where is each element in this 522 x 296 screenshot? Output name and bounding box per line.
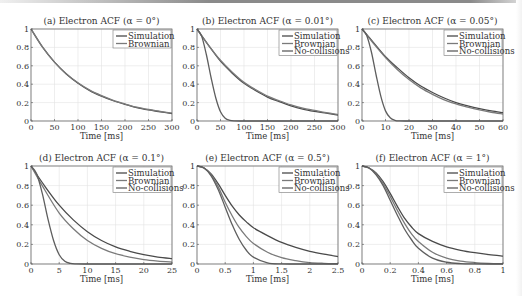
panel-title: (b) Electron ACF (α = 0.01°)	[202, 16, 333, 26]
y-tick-label: 0.2	[347, 240, 360, 249]
legend-entry: No-collisions	[459, 183, 515, 193]
x-tick-label: 0	[194, 266, 199, 275]
y-tick-label: 1	[355, 25, 360, 34]
y-tick-label: 1	[355, 162, 360, 171]
y-tick-label: 1	[24, 162, 29, 171]
x-tick-label: 2.5	[332, 266, 345, 275]
y-tick-label: 0	[24, 117, 29, 126]
panel-title: (d) Electron ACF (α = 0.1°)	[39, 153, 164, 163]
y-tick-label: 0.2	[347, 99, 360, 108]
chart-panel-d: 051015202500.20.40.60.81(d) Electron ACF…	[16, 153, 183, 284]
y-tick-label: 0	[190, 260, 195, 269]
x-tick-label: 50	[49, 123, 59, 132]
legend: SimulationBrownianNo-collisions	[113, 167, 184, 193]
y-tick-label: 0.4	[182, 221, 195, 230]
x-tick-label: 50	[474, 123, 484, 132]
y-tick-label: 0.8	[16, 43, 29, 52]
y-tick-label: 0.8	[182, 43, 195, 52]
x-tick-label: 0	[359, 123, 364, 132]
x-axis-label: Time [ms]	[411, 131, 454, 141]
x-tick-label: 50	[215, 123, 225, 132]
y-tick-label: 0.2	[16, 99, 29, 108]
y-tick-label: 0.6	[347, 201, 360, 210]
y-tick-label: 0.4	[16, 221, 29, 230]
panel-title: (a) Electron ACF (α = 0°)	[43, 16, 159, 26]
x-tick-label: 300	[330, 123, 345, 132]
legend-entry: No-collisions	[294, 46, 350, 56]
y-tick-label: 1	[24, 25, 29, 34]
panel-title: (e) Electron ACF (α = 0.5°)	[205, 153, 330, 163]
x-tick-label: 250	[307, 123, 322, 132]
x-tick-label: 2	[307, 266, 312, 275]
x-tick-label: 10	[380, 123, 390, 132]
chart-panel-f: 00.20.40.60.8100.20.40.60.81(f) Electron…	[347, 153, 514, 284]
x-tick-label: 250	[141, 123, 156, 132]
x-axis-label: Time [ms]	[80, 274, 123, 284]
chart-panel-a: 05010015020025030000.20.40.60.81(a) Elec…	[16, 16, 179, 141]
x-tick-label: 0	[28, 266, 33, 275]
legend-entry: Brownian	[128, 39, 170, 49]
y-tick-label: 0.6	[182, 62, 195, 71]
y-tick-label: 0.8	[347, 182, 360, 191]
legend: SimulationBrownianNo-collisions	[279, 167, 350, 193]
panel-title: (c) Electron ACF (α = 0.05°)	[367, 16, 497, 26]
chart-panel-c: 010203040506000.20.40.60.81(c) Electron …	[347, 16, 514, 141]
legend: SimulationBrownianNo-collisions	[279, 30, 350, 56]
x-tick-label: 1	[500, 266, 505, 275]
y-tick-label: 0.6	[347, 62, 360, 71]
y-tick-label: 1	[190, 162, 195, 171]
y-tick-label: 0.2	[182, 240, 195, 249]
y-tick-label: 0.8	[16, 182, 29, 191]
x-tick-label: 0	[28, 123, 33, 132]
chart-panel-b: 05010015020025030000.20.40.60.81(b) Elec…	[182, 16, 349, 141]
x-axis-label: Time [ms]	[246, 131, 289, 141]
x-tick-label: 60	[498, 123, 508, 132]
legend-entry: No-collisions	[294, 183, 350, 193]
x-tick-label: 300	[164, 123, 179, 132]
y-tick-label: 0.6	[16, 62, 29, 71]
y-tick-label: 0.6	[16, 201, 29, 210]
legend: SimulationBrownian	[113, 30, 175, 49]
y-tick-label: 0.4	[347, 221, 360, 230]
x-tick-label: 0	[194, 123, 199, 132]
y-tick-label: 0	[355, 260, 360, 269]
legend-entry: No-collisions	[128, 183, 184, 193]
y-tick-label: 0.4	[347, 80, 360, 89]
y-tick-label: 0.4	[182, 80, 195, 89]
x-tick-label: 0	[359, 266, 364, 275]
y-tick-label: 1	[190, 25, 195, 34]
figure-canvas: 05010015020025030000.20.40.60.81(a) Elec…	[0, 0, 522, 296]
x-axis-label: Time [ms]	[80, 131, 123, 141]
x-tick-label: 5	[57, 266, 62, 275]
y-tick-label: 0.2	[182, 99, 195, 108]
y-tick-label: 0.4	[16, 80, 29, 89]
y-tick-label: 0.2	[16, 240, 29, 249]
legend-entry: No-collisions	[459, 46, 515, 56]
legend: SimulationBrownianNo-collisions	[444, 167, 515, 193]
legend: SimulationBrownianNo-collisions	[444, 30, 515, 56]
x-tick-label: 0.8	[468, 266, 481, 275]
y-tick-label: 0.8	[182, 182, 195, 191]
x-tick-label: 0.5	[219, 266, 232, 275]
y-tick-label: 0.8	[347, 43, 360, 52]
y-tick-label: 0	[355, 117, 360, 126]
x-tick-label: 0.2	[384, 266, 397, 275]
x-tick-label: 25	[167, 266, 177, 275]
x-axis-label: Time [ms]	[411, 274, 454, 284]
panel-title: (f) Electron ACF (α = 1°)	[375, 153, 489, 163]
y-tick-label: 0.6	[182, 201, 195, 210]
x-axis-label: Time [ms]	[246, 274, 289, 284]
x-tick-label: 20	[139, 266, 149, 275]
y-tick-label: 0	[190, 117, 195, 126]
y-tick-label: 0	[24, 260, 29, 269]
chart-panel-e: 00.511.522.500.20.40.60.81(e) Electron A…	[182, 153, 349, 284]
